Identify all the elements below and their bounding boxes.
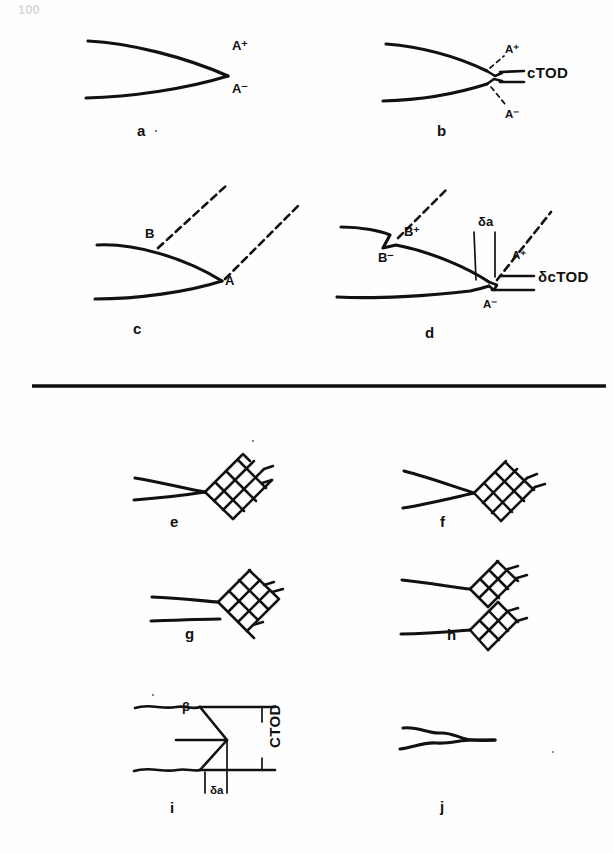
panel-a-upper-flank	[88, 41, 228, 76]
panel-f-caption: f	[440, 513, 446, 530]
panel-c-caption: c	[133, 320, 141, 337]
panel-d-label-delta-a: δa	[478, 214, 494, 229]
panel-d-label-a-minus: A⁻	[483, 298, 497, 310]
panel-h-caption: h	[447, 626, 456, 643]
panel-g-upper-flank	[152, 597, 218, 602]
panel-e: e	[134, 440, 273, 530]
figure-root: 100 A⁺ A⁻ a A⁺ cTOD A⁻ b	[0, 0, 614, 853]
panel-c: B A c	[95, 184, 298, 337]
panel-b-leader-a-minus	[491, 87, 505, 104]
panel-i: β CTOD δa i	[134, 694, 283, 816]
panel-i-label-ctod: CTOD	[266, 704, 283, 748]
panel-c-upper-flank	[97, 245, 222, 281]
panel-h-lower-flank	[401, 630, 470, 634]
panel-h-plastic-zone-mesh-lower	[470, 602, 527, 650]
panel-a-lower-flank	[86, 76, 228, 98]
panel-e-speck	[252, 440, 254, 442]
panel-c-label-b: B	[145, 226, 154, 241]
panel-f-upper-flank	[404, 471, 474, 493]
panel-e-plastic-zone-mesh	[205, 454, 273, 519]
panel-d-label-b-plus: B⁺	[404, 224, 420, 239]
panel-b-leader-a-plus	[490, 56, 504, 68]
panel-e-upper-flank	[135, 478, 205, 492]
panel-j: j	[400, 728, 554, 815]
panel-a: A⁺ A⁻ a	[86, 38, 248, 139]
panel-d-label-b-minus: B⁻	[378, 250, 394, 265]
panel-c-slip-band-b	[158, 184, 228, 248]
page-number: 100	[18, 2, 40, 17]
panel-g-lower-flank	[151, 619, 220, 621]
panel-i-upper-surface	[135, 706, 200, 708]
panel-i-lower-surface	[134, 769, 200, 771]
panel-f-lower-flank	[403, 493, 474, 508]
figure-canvas: 100 A⁺ A⁻ a A⁺ cTOD A⁻ b	[0, 0, 614, 853]
panel-a-caption: a	[137, 122, 146, 139]
panel-h-plastic-zone-mesh-upper	[470, 561, 527, 607]
panel-d-lower-flank	[337, 286, 489, 298]
panel-d-label-a-plus: A⁺	[512, 249, 526, 261]
panel-j-caption: j	[439, 798, 444, 815]
panel-h-upper-flank	[402, 580, 470, 589]
panel-g-caption: g	[185, 625, 194, 642]
panel-a-speck	[155, 130, 157, 132]
panel-d-label-delta-ctod: δcTOD	[538, 268, 589, 285]
panel-e-caption: e	[170, 513, 178, 530]
panel-a-label-a-plus: A⁺	[232, 38, 248, 53]
panel-d-caption: d	[425, 324, 434, 341]
panel-e-lower-flank	[134, 492, 205, 500]
panel-c-label-a: A	[225, 273, 235, 288]
panel-b-ctod-line-top	[500, 71, 524, 72]
panel-b-label-a-plus: A⁺	[505, 43, 519, 55]
panel-j-lower-rough-flank	[400, 740, 495, 749]
panel-i-label-delta-a: δa	[210, 784, 224, 796]
panel-i-caption: i	[170, 799, 174, 816]
panel-i-label-beta: β	[182, 699, 190, 714]
panel-d: B⁺ B⁻ δa A⁺ δcTOD A⁻ d	[337, 188, 589, 341]
panel-c-lower-flank	[95, 281, 222, 299]
panel-b-label-ctod: cTOD	[527, 64, 568, 81]
panel-j-speck	[552, 751, 554, 753]
panel-g-plastic-zone-mesh	[218, 570, 283, 638]
panel-b-upper-flank	[386, 44, 487, 71]
panel-i-wedge-tip	[200, 707, 227, 770]
panel-g: g	[151, 570, 283, 642]
panel-c-slip-band-a	[225, 206, 298, 279]
panel-f: f	[403, 461, 545, 530]
panel-b: A⁺ cTOD A⁻ b	[383, 43, 568, 139]
panel-b-label-a-minus: A⁻	[505, 108, 519, 120]
panel-i-speck	[152, 694, 154, 696]
panel-h: h	[401, 561, 527, 650]
panel-f-plastic-zone-mesh	[474, 461, 545, 521]
panel-b-caption: b	[437, 122, 446, 139]
panel-a-label-a-minus: A⁻	[232, 81, 248, 96]
panel-b-lower-flank	[383, 84, 487, 101]
